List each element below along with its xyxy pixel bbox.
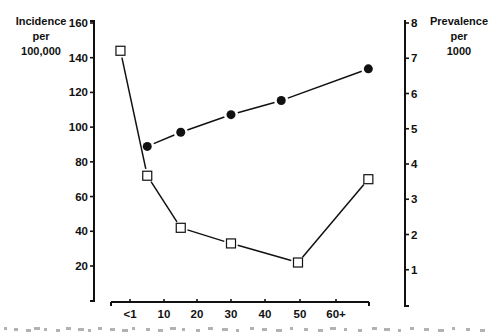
incidence-line-segment: [122, 58, 146, 169]
right-axis-tick-label: 5: [411, 123, 418, 135]
caption-glyph-fragment: [66, 327, 71, 330]
x-axis-tick-label: 10: [158, 308, 171, 320]
caption-glyph-fragment: [78, 328, 84, 331]
incidence-line-segment: [187, 230, 224, 241]
incidence-line-segment: [151, 182, 177, 222]
caption-glyph-fragment: [222, 328, 228, 331]
caption-glyph-fragment: [170, 327, 176, 330]
left-axis-tick-label: 140: [69, 52, 88, 64]
incidence-square-marker: [143, 171, 152, 180]
caption-glyph-fragment: [466, 328, 470, 331]
prevalence-circle-marker: [227, 110, 236, 119]
right-axis-tick-label: 7: [411, 52, 417, 64]
caption-glyph-fragment: [384, 328, 390, 331]
incidence-square-marker: [294, 258, 303, 267]
caption-glyph-fragment: [410, 327, 414, 330]
left-axis-tick-label: 20: [75, 260, 88, 272]
right-axis-tick-label: 2: [411, 229, 417, 241]
right-axis-tick-label: 1: [411, 264, 418, 276]
caption-glyph-fragment: [262, 328, 267, 331]
prevalence-circle-marker: [277, 96, 286, 105]
caption-glyph-fragment: [424, 328, 429, 331]
right-axis-tick-label: 8: [411, 17, 418, 29]
caption-glyph-fragment: [290, 327, 293, 330]
incidence-square-marker: [364, 175, 373, 184]
right-axis-tick-label: 6: [411, 88, 417, 100]
caption-glyph-fragment: [372, 327, 377, 330]
left-axis-tick-label: 120: [69, 86, 88, 98]
x-axis-tick-label: <1: [123, 308, 137, 320]
prevalence-line-segment: [238, 102, 275, 112]
caption-glyph-fragment: [344, 328, 347, 331]
cropped-caption: [0, 325, 494, 332]
left-axis-tick-label: 80: [75, 156, 88, 168]
incidence-line-segment: [303, 185, 364, 258]
caption-glyph-fragment: [98, 327, 102, 330]
caption-glyph-fragment: [452, 327, 455, 330]
incidence-square-marker: [116, 46, 125, 55]
caption-glyph-fragment: [110, 328, 115, 331]
x-axis-tick-label: 40: [259, 308, 272, 320]
right-axis-tick-label: 3: [411, 193, 417, 205]
x-axis-tick-label: 30: [225, 308, 238, 320]
incidence-line-segment: [238, 245, 292, 260]
prevalence-line-segment: [187, 117, 224, 130]
x-axis-tick-label: 50: [294, 308, 307, 320]
plot-area: 2040608010012014016012345678<11020304050…: [0, 0, 494, 332]
incidence-square-marker: [227, 239, 236, 248]
caption-glyph-fragment: [330, 327, 336, 330]
x-axis-tick-label: 20: [191, 308, 204, 320]
caption-glyph-fragment: [250, 327, 254, 330]
left-axis-tick-label: 100: [69, 121, 88, 133]
caption-glyph-fragment: [44, 328, 47, 331]
prevalence-circle-marker: [364, 64, 373, 73]
prevalence-line-segment: [288, 71, 362, 98]
x-axis-tick-label: 60+: [326, 308, 346, 320]
caption-glyph-fragment: [304, 328, 308, 331]
caption-glyph-fragment: [14, 328, 18, 331]
caption-glyph-fragment: [4, 327, 7, 330]
caption-glyph-fragment: [132, 327, 135, 330]
prevalence-circle-marker: [143, 142, 152, 151]
incidence-square-marker: [176, 223, 185, 232]
caption-glyph-fragment: [182, 328, 185, 331]
caption-glyph-fragment: [146, 328, 150, 331]
left-axis-tick-label: 160: [69, 17, 88, 29]
right-axis-tick-label: 4: [411, 158, 418, 170]
prevalence-line-segment: [154, 135, 175, 144]
caption-glyph-fragment: [208, 327, 213, 330]
left-axis-tick-label: 40: [75, 225, 88, 237]
caption-glyph-fragment: [34, 327, 40, 330]
left-axis-tick-label: 60: [75, 191, 88, 203]
prevalence-circle-marker: [176, 128, 185, 137]
chart-figure: Incidence per 100,000 Prevalence per 100…: [0, 0, 494, 332]
